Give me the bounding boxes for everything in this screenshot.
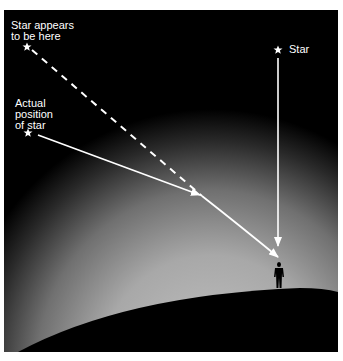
diagram-canvas <box>4 10 338 352</box>
actual-star-label: Actual position of star <box>15 98 53 131</box>
overhead-star-label: Star <box>289 44 309 55</box>
apparent-star-label: Star appears to be here <box>11 20 74 42</box>
refraction-diagram: Star appears to be here Actual position … <box>4 10 338 352</box>
